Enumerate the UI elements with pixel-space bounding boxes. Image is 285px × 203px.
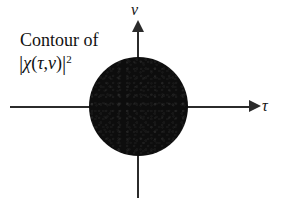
x-axis-label: τ [262, 98, 268, 114]
ambiguity-function-contour-figure: τ ν Contour of |χ(τ,ν)|2 [0, 0, 285, 203]
y-axis-label: ν [131, 2, 138, 18]
nu-symbol: ν [48, 53, 56, 73]
chi-symbol: χ [23, 53, 31, 73]
caption-line-chi-expression: |χ(τ,ν)|2 [19, 53, 72, 74]
caption-line-contour-of: Contour of [20, 31, 99, 49]
x-axis-arrow-icon [249, 100, 261, 112]
y-axis-arrow-icon [132, 20, 144, 32]
exponent-two: 2 [66, 53, 72, 65]
contour-region-main-lobe [89, 57, 188, 156]
